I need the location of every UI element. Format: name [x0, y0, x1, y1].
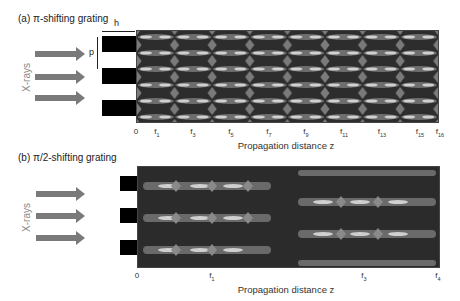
panel-a-xrays-label: X-rays [21, 63, 32, 92]
panel-a-title: (a) π-shifting grating [18, 13, 108, 24]
tick-label: f11 [340, 127, 348, 138]
panel-b-title: (b) π/2-shifting grating [18, 152, 117, 163]
panel-b-xrays-label: X-rays [21, 203, 32, 232]
grating-bar [120, 176, 137, 191]
grating-bar [102, 68, 136, 84]
xray-arrow-icon [36, 235, 77, 241]
tick-label: f7 [266, 127, 271, 138]
dimension-p-line [97, 37, 98, 69]
grating-bar [102, 36, 136, 52]
dimension-h-line [102, 31, 135, 32]
panel-b-xlabel: Propagation distance z [238, 284, 335, 295]
xray-arrow-icon [36, 213, 77, 219]
tick-label: f5 [228, 127, 233, 138]
grating-bar [120, 240, 137, 255]
grating-bar [120, 208, 137, 223]
tick-label: f1 [209, 271, 214, 282]
panel-b-talbot-carpet [137, 166, 440, 268]
xray-arrow-icon [35, 95, 77, 101]
tick-label: f3 [361, 271, 366, 282]
panel-a-talbot-carpet [136, 30, 439, 123]
tick-label: f13 [378, 127, 386, 138]
panel-a-xlabel: Propagation distance z [238, 140, 335, 151]
grating-bar [102, 100, 136, 116]
dimension-p-label: p [89, 47, 94, 57]
tick-label: 0 [135, 271, 139, 280]
tick-label: f15 [416, 127, 424, 138]
tick-label: f4 [435, 271, 440, 282]
tick-label: f9 [303, 127, 308, 138]
tick-label: f16 [436, 127, 444, 138]
xray-arrow-icon [35, 51, 77, 57]
tick-label: f3 [190, 127, 195, 138]
dimension-h-label: h [114, 18, 119, 28]
xray-arrow-icon [36, 191, 77, 197]
xray-arrow-icon [35, 74, 77, 80]
tick-label: f1 [154, 127, 159, 138]
tick-label: 0 [134, 127, 138, 136]
